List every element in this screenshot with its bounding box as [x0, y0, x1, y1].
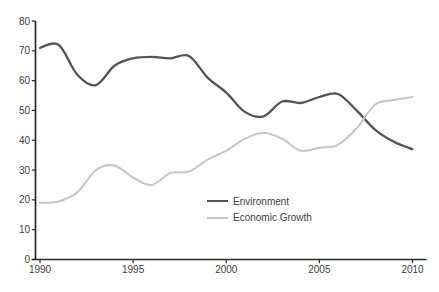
svg-text:80: 80: [19, 16, 31, 27]
svg-text:50: 50: [19, 105, 31, 116]
svg-text:70: 70: [19, 45, 31, 56]
svg-text:1995: 1995: [122, 264, 145, 275]
svg-text:2005: 2005: [308, 264, 331, 275]
economic-growth-line-swatch: [207, 217, 228, 219]
chart-legend: Environment Economic Growth: [207, 193, 312, 226]
svg-text:1990: 1990: [29, 264, 52, 275]
legend-label-environment: Environment: [233, 196, 289, 207]
svg-text:2010: 2010: [401, 264, 424, 275]
legend-item-economic-growth: Economic Growth: [207, 210, 312, 227]
svg-text:40: 40: [19, 135, 31, 146]
svg-text:20: 20: [19, 194, 31, 205]
legend-item-environment: Environment: [207, 193, 312, 210]
environment-line-swatch: [207, 200, 228, 202]
svg-text:30: 30: [19, 165, 31, 176]
plot-area: 0102030405060708019901995200020052010: [0, 0, 439, 292]
line-chart: 0102030405060708019901995200020052010 En…: [0, 0, 439, 292]
svg-text:10: 10: [19, 224, 31, 235]
svg-text:60: 60: [19, 75, 31, 86]
svg-text:2000: 2000: [215, 264, 238, 275]
legend-label-economic-growth: Economic Growth: [233, 212, 312, 223]
